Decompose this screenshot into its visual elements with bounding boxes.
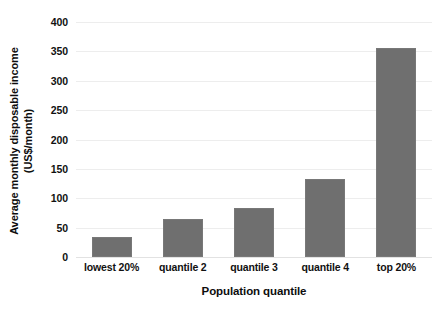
- bar[interactable]: [163, 219, 203, 257]
- bar-slot: [361, 22, 432, 257]
- bar-series: [76, 22, 432, 257]
- bar-slot: [76, 22, 147, 257]
- y-axis-tick-label: 300: [51, 75, 68, 87]
- y-axis-tick-label: 0: [62, 251, 68, 263]
- y-axis-tick-label: 100: [51, 192, 68, 204]
- gridline: [76, 257, 432, 258]
- x-axis-tick-label: quantile 4: [290, 261, 361, 279]
- bar-slot: [218, 22, 289, 257]
- y-axis-title-line-1: Average monthly disposable income: [7, 47, 21, 235]
- bar-slot: [290, 22, 361, 257]
- x-axis-tick-label: quantile 3: [218, 261, 289, 279]
- x-axis-title: Population quantile: [76, 285, 432, 297]
- x-axis-tick-label: lowest 20%: [76, 261, 147, 279]
- y-axis-tick-labels: 050100150200250300350400: [30, 22, 72, 257]
- bar-slot: [147, 22, 218, 257]
- y-axis-tick-label: 150: [51, 163, 68, 175]
- bar-chart: Average monthly disposable income (US$/m…: [0, 0, 442, 310]
- y-axis-tick-label: 350: [51, 45, 68, 57]
- bar[interactable]: [92, 237, 132, 257]
- x-axis-tick-label: quantile 2: [147, 261, 218, 279]
- bar[interactable]: [234, 208, 274, 257]
- x-axis-tick-label: top 20%: [361, 261, 432, 279]
- y-axis-tick-label: 250: [51, 104, 68, 116]
- bar[interactable]: [305, 179, 345, 257]
- plot-area: [76, 22, 432, 257]
- y-axis-tick-label: 200: [51, 134, 68, 146]
- x-axis-tick-labels: lowest 20%quantile 2quantile 3quantile 4…: [76, 261, 432, 279]
- y-axis-tick-label: 50: [57, 222, 68, 234]
- bar[interactable]: [376, 48, 416, 257]
- y-axis-tick-label: 400: [51, 16, 68, 28]
